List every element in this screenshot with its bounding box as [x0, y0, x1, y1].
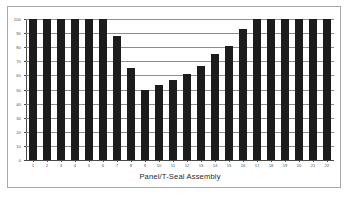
bar [281, 19, 289, 160]
bar [169, 80, 177, 160]
bar [141, 90, 149, 161]
x-axis-tick-mark [145, 160, 146, 162]
y-axis-tick-label: 60 [16, 73, 21, 78]
bar [197, 66, 205, 160]
x-axis-tick-mark [271, 160, 272, 162]
y-axis-tick-label: 50 [16, 87, 21, 92]
x-axis-tick-label: 7 [116, 163, 118, 168]
x-axis-tick-label: 11 [171, 163, 175, 168]
y-axis-tick-label: 0 [19, 158, 21, 163]
x-axis-tick-mark [89, 160, 90, 162]
bar [267, 19, 275, 160]
x-axis-tick-label: 10 [157, 163, 162, 168]
x-axis-tick-mark [187, 160, 188, 162]
x-axis-tick-mark [201, 160, 202, 162]
x-axis-tick-label: 2 [46, 163, 48, 168]
y-axis-tick-label: 80 [16, 45, 21, 50]
chart-figure: 0102030405060708090100 12345678910111213… [0, 0, 349, 197]
x-axis-tick-mark [173, 160, 174, 162]
x-axis-tick-label: 18 [269, 163, 274, 168]
x-axis-tick-label: 9 [144, 163, 146, 168]
bar [239, 29, 247, 160]
x-axis-tick-label: 17 [255, 163, 260, 168]
x-axis-tick-mark [285, 160, 286, 162]
x-axis-tick-label: 1 [32, 163, 34, 168]
bar [85, 19, 93, 160]
x-axis-tick-mark [327, 160, 328, 162]
bar [113, 36, 121, 160]
x-axis-tick-label: 8 [130, 163, 132, 168]
x-axis-tick-label: 5 [88, 163, 90, 168]
x-axis-tick-label: 6 [102, 163, 104, 168]
y-axis-tick-label: 30 [16, 115, 21, 120]
bar [211, 54, 219, 160]
y-axis-tick-label: 10 [16, 143, 21, 148]
x-axis-tick-mark [103, 160, 104, 162]
y-axis-tick-label: 40 [16, 101, 21, 106]
y-axis-tick-label: 100 [14, 17, 21, 22]
x-axis-tick-label: 16 [241, 163, 246, 168]
x-axis-tick-mark [215, 160, 216, 162]
bar [57, 19, 65, 160]
x-axis-tick-mark [61, 160, 62, 162]
bar [127, 68, 135, 160]
x-axis-tick-mark [131, 160, 132, 162]
plot-area [26, 19, 334, 160]
x-axis-tick-mark [257, 160, 258, 162]
bar [309, 19, 317, 160]
bar [155, 85, 163, 160]
x-axis-tick-label: 13 [199, 163, 204, 168]
x-axis-tick-label: 19 [283, 163, 288, 168]
x-axis-tick-label: 21 [311, 163, 316, 168]
x-axis-tick-mark [229, 160, 230, 162]
x-axis-tick-mark [299, 160, 300, 162]
x-axis-tick-mark [33, 160, 34, 162]
x-axis-tick-mark [243, 160, 244, 162]
x-axis-title: Panel/T-Seal Assembly [26, 172, 334, 181]
x-axis-tick-mark [47, 160, 48, 162]
x-axis-tick-label: 22 [325, 163, 330, 168]
bar [43, 19, 51, 160]
x-axis-tick-mark [313, 160, 314, 162]
bar [71, 19, 79, 160]
bar [183, 74, 191, 160]
y-axis-tick-label: 90 [16, 31, 21, 36]
y-axis-tick-label: 70 [16, 59, 21, 64]
x-axis-tick-label: 3 [60, 163, 62, 168]
x-axis-tick-mark [75, 160, 76, 162]
x-axis-tick-label: 4 [74, 163, 76, 168]
x-axis-tick-mark [117, 160, 118, 162]
bar [225, 46, 233, 160]
x-axis-tick-mark [159, 160, 160, 162]
x-axis-tick-label: 20 [297, 163, 302, 168]
bar [323, 19, 331, 160]
bar-series [26, 19, 334, 160]
x-axis-tick-label: 14 [213, 163, 218, 168]
y-axis-tick-label: 20 [16, 129, 21, 134]
y-axis-tick-labels: 0102030405060708090100 [0, 19, 24, 160]
x-axis-tick-label: 15 [227, 163, 232, 168]
bar [253, 19, 261, 160]
bar [295, 19, 303, 160]
bar [99, 19, 107, 160]
x-axis-tick-label: 12 [185, 163, 190, 168]
bar [29, 19, 37, 160]
